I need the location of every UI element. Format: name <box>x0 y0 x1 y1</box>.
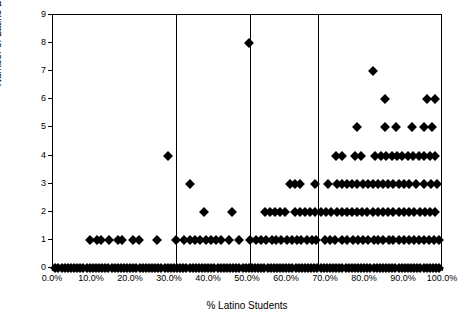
x-tick-mark <box>325 267 326 271</box>
x-tick-mark <box>247 267 248 271</box>
x-tick-label: 50.0% <box>234 273 260 283</box>
x-tick-label: 10.0% <box>78 273 104 283</box>
x-tick-mark <box>91 267 92 271</box>
x-tick-mark <box>208 267 209 271</box>
x-tick-mark <box>130 267 131 271</box>
x-tick-mark <box>286 267 287 271</box>
x-tick-label: 30.0% <box>156 273 182 283</box>
x-tick-mark <box>442 267 443 271</box>
x-axis-title: % Latino Students <box>52 300 442 311</box>
x-tick-mark <box>52 267 53 271</box>
x-tick-label: 40.0% <box>195 273 221 283</box>
x-tick-label: 80.0% <box>351 273 377 283</box>
x-tick-label: 100.0% <box>427 273 458 283</box>
x-tick-mark <box>364 267 365 271</box>
x-tick-label: 70.0% <box>312 273 338 283</box>
x-tick-label: 60.0% <box>273 273 299 283</box>
scatter-chart: 0123456789 0.0%10.0%20.0%30.0%40.0%50.0%… <box>0 0 475 322</box>
x-axis-ticks: 0.0%10.0%20.0%30.0%40.0%50.0%60.0%70.0%8… <box>0 0 475 322</box>
x-tick-label: 0.0% <box>42 273 63 283</box>
x-tick-label: 20.0% <box>117 273 143 283</box>
x-tick-mark <box>403 267 404 271</box>
x-tick-label: 90.0% <box>390 273 416 283</box>
y-axis-title: Number of Latino Board members <box>0 0 3 141</box>
x-tick-mark <box>169 267 170 271</box>
